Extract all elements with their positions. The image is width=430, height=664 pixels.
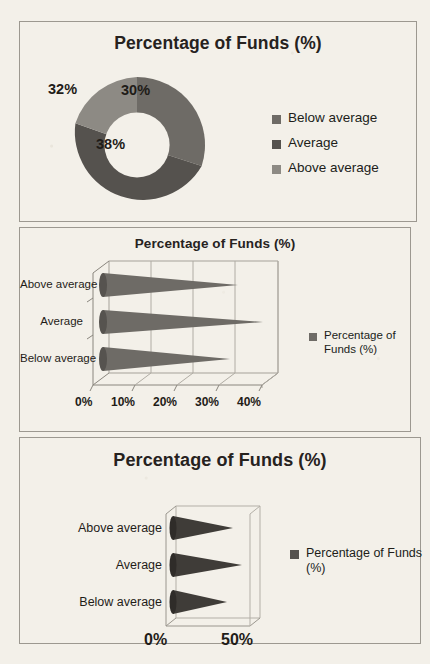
cone3d-bar-average[interactable] — [99, 310, 263, 334]
axis-right-wall — [250, 506, 260, 626]
axis-depth-top-left — [93, 261, 109, 273]
donut-chart-title: Percentage of Funds (%) — [20, 33, 416, 54]
legend-swatch-icon — [290, 550, 299, 559]
donut-value-label-below-average: 30% — [121, 82, 150, 98]
cone3d-xtick-10: 10% — [111, 395, 135, 409]
legend-swatch-icon — [272, 115, 281, 124]
cone2d-bar-average[interactable] — [170, 553, 243, 577]
cone2d-category-label-above-average: Above average — [60, 521, 162, 535]
cone3d-category-label-average: Average — [20, 315, 83, 327]
cone3d-bar-above-average[interactable] — [99, 273, 238, 297]
legend-item-label: Average — [288, 135, 338, 151]
legend-item-label-line2: Funds (%) — [324, 343, 377, 355]
axis-tick-x-2 — [174, 385, 177, 391]
axis-tick-x-1 — [132, 385, 135, 391]
legend-item-label: Percentage of Funds (%) — [324, 329, 396, 356]
cone2d-xtick-0: 0% — [144, 631, 167, 649]
axis-tick-x-3 — [216, 385, 219, 391]
cone3d-xtick-20: 20% — [153, 395, 177, 409]
donut-chart-legend: Below average Average Above average — [272, 110, 379, 185]
cone2d-bar-below-average[interactable] — [170, 590, 228, 614]
legend-item-above-average[interactable]: Above average — [272, 160, 379, 176]
legend-item-label-line2: (%) — [306, 561, 325, 575]
gridline-40 — [262, 261, 278, 385]
legend-item-percentage-of-funds[interactable]: Percentage of Funds (%) — [309, 329, 414, 356]
legend-item-label: Above average — [288, 160, 379, 176]
axis-tick-x-0 — [90, 385, 93, 391]
cone3d-chart-legend: Percentage of Funds (%) — [309, 329, 414, 365]
donut-value-label-above-average: 32% — [48, 81, 77, 97]
cone2d-chart-legend: Percentage of Funds (%) — [290, 546, 425, 585]
legend-swatch-icon — [272, 165, 281, 174]
axis-depth-top-left — [166, 506, 176, 514]
cone2d-plot-area — [20, 438, 420, 643]
legend-item-label: Below average — [288, 110, 377, 126]
cone2d-bar-above-average[interactable] — [170, 516, 234, 540]
cone2d-chart-panel: Percentage of Funds (%) — [19, 437, 421, 644]
cone3d-xtick-30: 30% — [195, 395, 219, 409]
cone2d-category-label-average: Average — [60, 558, 162, 572]
axis-tick-cat-2 — [87, 335, 93, 339]
legend-item-label-line1: Percentage of — [324, 329, 396, 341]
cone3d-bar-below-average[interactable] — [99, 347, 230, 371]
cone3d-chart-panel: Percentage of Funds (%) — [19, 227, 411, 432]
axis-tick-cat-1 — [87, 298, 93, 302]
cone3d-xtick-0: 0% — [75, 395, 92, 409]
legend-item-label-line1: Percentage of Funds — [306, 546, 422, 560]
legend-item-average[interactable]: Average — [272, 135, 379, 151]
cone3d-category-label-below-average: Below average — [20, 352, 83, 364]
cone3d-xtick-40: 40% — [237, 395, 261, 409]
legend-swatch-icon — [309, 333, 317, 341]
cone3d-category-label-above-average: Above average — [20, 278, 83, 290]
cone2d-xtick-50: 50% — [221, 631, 253, 649]
cone2d-category-label-below-average: Below average — [60, 595, 162, 609]
donut-value-label-average: 38% — [96, 136, 125, 152]
legend-item-percentage-of-funds[interactable]: Percentage of Funds (%) — [290, 546, 425, 576]
legend-item-below-average[interactable]: Below average — [272, 110, 379, 126]
legend-item-label: Percentage of Funds (%) — [306, 546, 422, 576]
donut-chart-panel: Percentage of Funds (%) 30% 38% 32% Belo… — [19, 21, 417, 222]
axis-floor-front — [166, 618, 260, 626]
legend-swatch-icon — [272, 140, 281, 149]
